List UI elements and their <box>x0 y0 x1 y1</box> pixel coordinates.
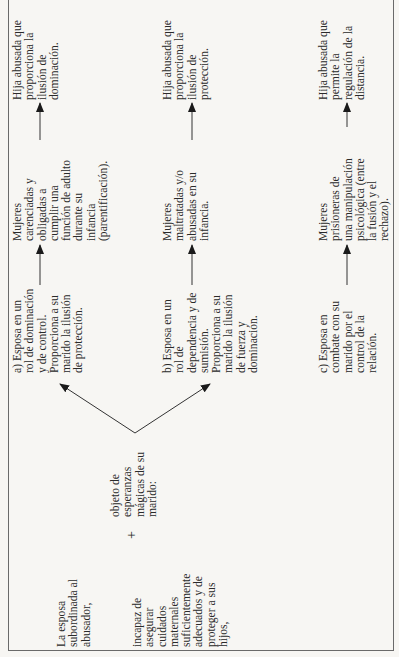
branch-b-mother: Mujeres maltratadas y/o abusadas en su i… <box>162 170 211 241</box>
plus-sign: + <box>126 531 138 539</box>
arrow-to-branch-a <box>60 384 135 433</box>
branch-b-role: b) Esposa en un rol de dependencia y de … <box>162 293 260 373</box>
rotated-diagram: La esposa subordinada al abusador, incap… <box>0 0 399 657</box>
abuser-wife-text: La esposa subordinada al abusador, <box>56 579 93 647</box>
branch-a-role: a) Esposa en un rol de dominación y de c… <box>12 289 86 373</box>
branch-a-mother: Mujeres carenciadas y obligadas a cumpli… <box>12 160 110 241</box>
arrow-to-branch-b <box>135 384 210 433</box>
branch-a-daughter: Hija abusada que proporciona la ilusión … <box>12 20 61 100</box>
branch-c-mother: Mujeres prisioneras de una manipulación … <box>318 158 392 241</box>
branch-c-daughter: Hija abusada que permite la regulación d… <box>318 20 367 100</box>
branch-b-daughter: Hija abusada que proporciona la ilusión … <box>162 20 211 100</box>
magic-hopes-text: objeto de esperanzas mágicas de su marid… <box>110 452 159 517</box>
incapable-mother-text: incapaz de asegurar cuidados maternales … <box>132 574 230 647</box>
branch-c-role: c) Esposa en combate con su marido por e… <box>318 301 379 373</box>
